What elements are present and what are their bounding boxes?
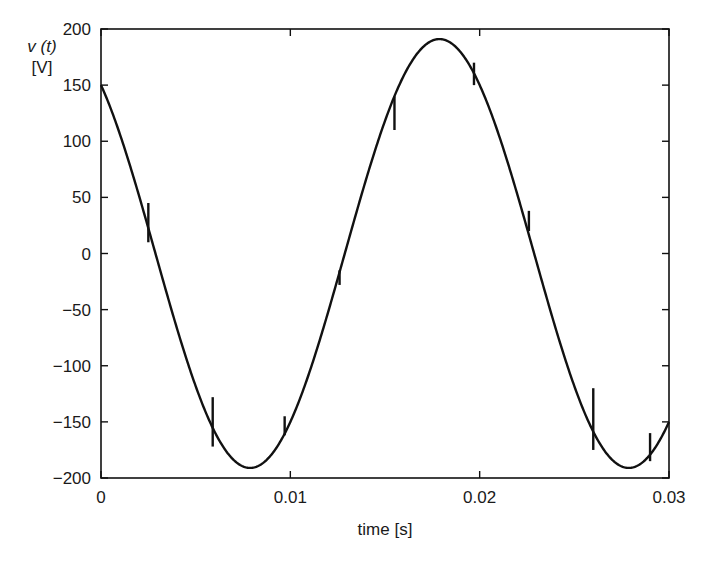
x-tick-label: 0 [96, 488, 105, 507]
y-tick-label: 200 [63, 20, 91, 39]
x-axis-label: time [s] [358, 520, 413, 539]
x-tick-label: 0.03 [652, 488, 685, 507]
x-axis-ticks: 00.010.020.03 [96, 29, 685, 507]
y-axis-label-var: v (t) [27, 37, 56, 56]
notch-spikes [148, 63, 650, 461]
x-tick-label: 0.01 [274, 488, 307, 507]
y-tick-label: 150 [63, 76, 91, 95]
y-tick-label: 0 [82, 245, 91, 264]
y-tick-label: −200 [53, 469, 91, 488]
y-tick-label: 100 [63, 132, 91, 151]
y-tick-label: −100 [53, 357, 91, 376]
y-axis-label-unit: [V] [32, 58, 53, 77]
y-tick-label: −50 [62, 301, 91, 320]
y-tick-label: 50 [72, 188, 91, 207]
y-axis-title: v (t) [V] [27, 37, 56, 77]
x-tick-label: 0.02 [463, 488, 496, 507]
y-axis-ticks: 200150100500−50−100−150−200 [53, 20, 669, 488]
voltage-chart: v (t) [V] 200150100500−50−100−150−200 00… [0, 0, 706, 565]
y-tick-label: −150 [53, 413, 91, 432]
voltage-waveform [101, 39, 669, 468]
